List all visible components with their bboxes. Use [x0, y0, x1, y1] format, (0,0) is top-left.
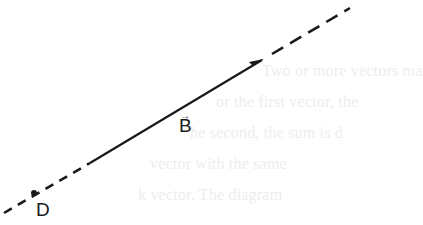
- arrowhead-icon: [249, 59, 264, 66]
- vector-b-line: [90, 60, 262, 163]
- dashed-extension-upper: [272, 8, 350, 54]
- point-d-marker: [31, 190, 37, 196]
- point-d-label: D: [36, 199, 50, 221]
- vector-b-label: → B: [179, 115, 192, 137]
- vector-arrow-icon: →: [180, 111, 190, 121]
